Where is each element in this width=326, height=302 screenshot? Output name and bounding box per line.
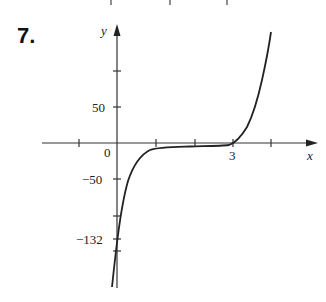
y-tick-label-neg50: −50 — [82, 172, 102, 187]
y-axis-arrow-icon — [114, 24, 121, 36]
origin-label: 0 — [104, 145, 111, 160]
problem-number: 7. — [17, 23, 35, 48]
x-axis-label: x — [306, 148, 313, 163]
top-residual-ticks — [111, 0, 227, 5]
y-axis-label: y — [99, 23, 107, 38]
x-axis: x 0 3 — [42, 139, 318, 163]
y-tick-label-neg132: −132 — [76, 232, 103, 247]
function-curve — [112, 32, 271, 287]
y-axis: y 50 −50 −132 — [76, 23, 121, 288]
y-tick-label-50: 50 — [92, 100, 105, 115]
x-axis-arrow-icon — [306, 140, 318, 147]
chart: 7. x 0 3 y 50 −50 −132 — [0, 0, 326, 302]
x-tick-label-3: 3 — [229, 148, 236, 163]
